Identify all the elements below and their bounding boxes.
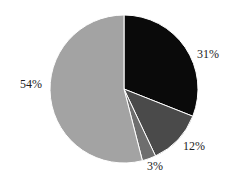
slice-label-3: 54% bbox=[20, 77, 42, 91]
slice-label-2: 3% bbox=[147, 159, 163, 173]
slice-label-1: 12% bbox=[183, 139, 205, 153]
pie-slices bbox=[50, 15, 198, 163]
pie-chart: 31% 12% 3% 54% bbox=[0, 0, 233, 183]
slice-label-0: 31% bbox=[197, 47, 219, 61]
